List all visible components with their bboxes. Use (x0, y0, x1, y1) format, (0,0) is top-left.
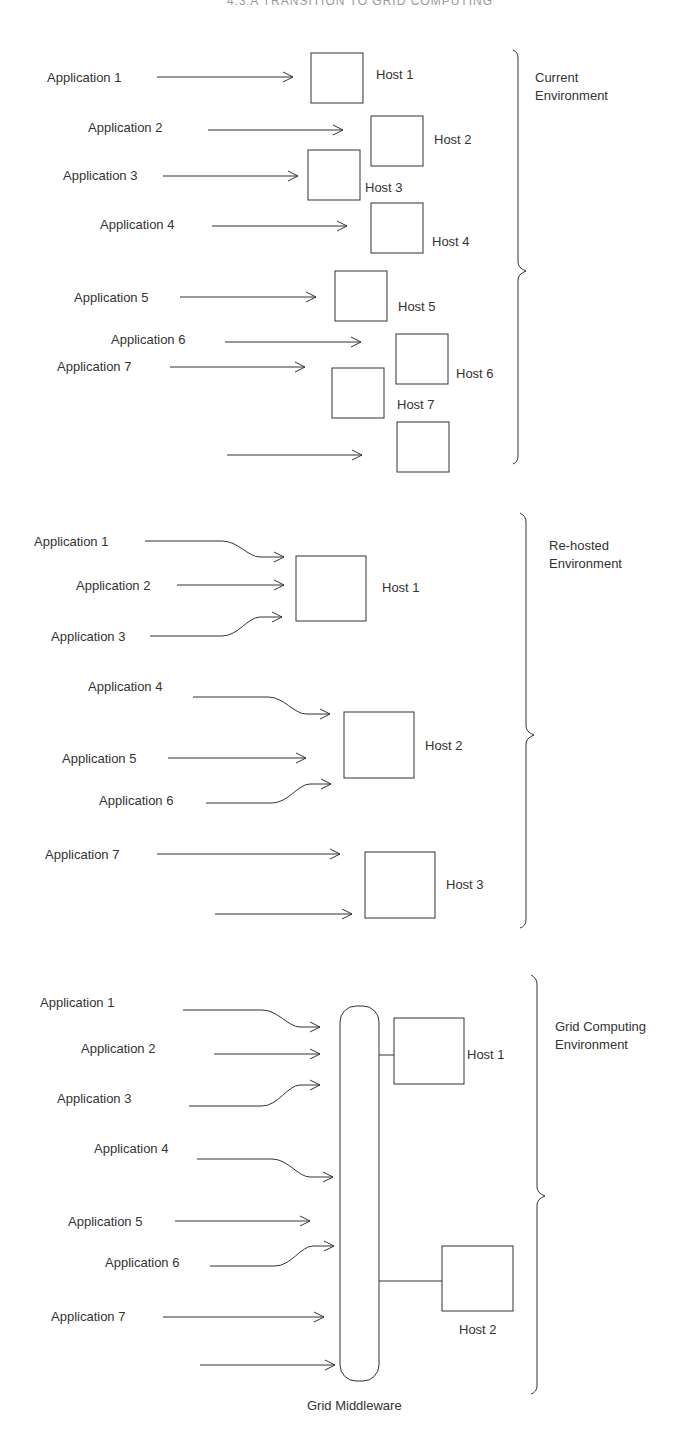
app-label: Application 6 (105, 1255, 179, 1270)
app-label: Application 5 (62, 751, 136, 766)
app-label: Application 4 (100, 217, 174, 232)
env-label-rehosted: Re-hosted Environment (549, 537, 622, 573)
grid-middleware-bar (340, 1006, 379, 1381)
host-label: Host 2 (434, 132, 472, 147)
host-label: Host 2 (459, 1322, 497, 1337)
host-label: Host 1 (382, 580, 420, 595)
host-label: Host 5 (398, 299, 436, 314)
env-label-current: Current Environment (535, 69, 608, 105)
app-label: Application 2 (88, 120, 162, 135)
app-label: Application 2 (81, 1041, 155, 1056)
app-label: Application 7 (45, 847, 119, 862)
middleware-label: Grid Middleware (307, 1398, 402, 1413)
app-label: Application 6 (99, 793, 173, 808)
host-label: Host 3 (446, 877, 484, 892)
host-label: Host 1 (376, 67, 414, 82)
app-label: Application 4 (94, 1141, 168, 1156)
current-arrows (157, 77, 362, 455)
app-label: Application 2 (76, 578, 150, 593)
app-label: Application 7 (51, 1309, 125, 1324)
host-label: Host 7 (397, 397, 435, 412)
app-label: Application 3 (63, 168, 137, 183)
app-label: Application 3 (51, 629, 125, 644)
app-label: Application 1 (47, 70, 121, 85)
app-label: Application 7 (57, 359, 131, 374)
host-label: Host 1 (467, 1047, 505, 1062)
grid-host1-box (394, 1018, 464, 1084)
host-label: Host 2 (425, 738, 463, 753)
grid-brace (531, 975, 545, 1394)
app-label: Application 6 (111, 332, 185, 347)
host-label: Host 3 (365, 180, 403, 195)
rehosted-brace (520, 513, 534, 928)
app-label: Application 1 (34, 534, 108, 549)
host-label: Host 6 (456, 366, 494, 381)
app-label: Application 5 (68, 1214, 142, 1229)
host-label: Host 4 (432, 234, 470, 249)
env-label-grid: Grid Computing Environment (555, 1018, 646, 1054)
grid-host2-box (442, 1246, 513, 1311)
grid-arrows (163, 1010, 335, 1365)
app-label: Application 5 (74, 290, 148, 305)
app-label: Application 1 (40, 995, 114, 1010)
app-label: Application 4 (88, 679, 162, 694)
current-brace (513, 50, 526, 464)
rehosted-host-boxes (296, 556, 435, 918)
app-label: Application 3 (57, 1091, 131, 1106)
rehosted-arrows (145, 541, 352, 914)
